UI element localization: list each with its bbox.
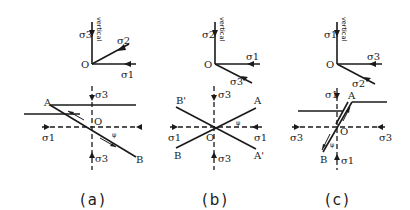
fault-stress-diagram: vertical σ3 σ1 σ2 O A B O ψ σ1 σ3: [0, 0, 410, 210]
bottom-stress-label: σ3: [95, 153, 108, 164]
bottom-stress-label: σ3: [218, 153, 231, 164]
arrow-right-icon: [172, 124, 178, 130]
point-b-prime-label: B': [176, 95, 186, 106]
origin-label: O: [326, 59, 334, 70]
caption-a: (a): [80, 191, 107, 209]
left-stress-label: σ1: [42, 132, 55, 143]
origin-label: O: [204, 59, 212, 70]
left-stress-label: σ1: [168, 132, 181, 143]
left-stress-label: σ3: [290, 132, 303, 143]
panel-a-fault: A B O ψ σ1 σ3 σ3: [24, 86, 143, 170]
vertical-label: vertical: [95, 17, 103, 41]
vertical-label: vertical: [340, 17, 348, 41]
angle-label: ψ: [112, 131, 116, 139]
origin-label: O: [81, 59, 89, 70]
panel-a: vertical σ3 σ1 σ2 O A B O ψ σ1 σ3: [24, 17, 143, 209]
arrow-left-icon: [252, 124, 258, 130]
horizontal-stress-label: σ1: [121, 69, 134, 80]
top-stress-label: σ3: [218, 89, 231, 100]
arrow-right-icon: [44, 124, 50, 130]
diagonal-stress-label: σ2: [352, 78, 365, 89]
arrow-up-icon: [334, 154, 340, 160]
right-stress-label: σ1: [254, 132, 267, 143]
angle-label: ψ: [236, 119, 240, 127]
vertical-stress-label: σ1: [324, 29, 337, 40]
arrow-down-icon: [211, 95, 217, 101]
bottom-stress-label: σ1: [341, 155, 354, 166]
fault-plane: [50, 105, 136, 157]
point-b-label: B: [320, 154, 327, 165]
point-a-label: A: [253, 95, 262, 106]
diagonal-stress-label: σ3: [230, 76, 243, 87]
caption-b: (b): [202, 191, 229, 209]
center-label: O: [94, 116, 102, 127]
angle-label: ψ: [330, 141, 334, 149]
point-a-label: A: [347, 90, 356, 101]
point-a-prime-label: A': [253, 150, 264, 161]
panel-b: vertical σ2 σ1 σ3 O B' A B A' O ψ σ1 σ1 …: [168, 17, 267, 209]
diagonal-stress-label: σ2: [117, 35, 130, 46]
right-stress-label: σ3: [379, 132, 392, 143]
point-b-label: B: [174, 150, 181, 161]
panel-c-fault: A B O ψ σ3 σ3 σ1 σ1: [290, 88, 392, 170]
arrow-left-icon: [377, 124, 383, 130]
arrow-left-icon: [124, 61, 131, 67]
panel-a-stress-axes: vertical σ3 σ1 σ2 O: [79, 17, 136, 80]
point-a-label: A: [43, 97, 52, 108]
arrow-up-icon: [211, 152, 217, 158]
horizontal-stress-label: σ3: [367, 51, 380, 62]
center-label: O: [340, 126, 348, 137]
panel-c-stress-axes: vertical σ1 σ3 σ2 O: [324, 17, 382, 89]
panel-b-stress-axes: vertical σ2 σ1 σ3 O: [202, 17, 260, 87]
vertical-stress-label: σ2: [202, 29, 215, 40]
arrow-left-icon: [136, 124, 142, 130]
panel-c: vertical σ1 σ3 σ2 O A B O ψ σ3 σ: [290, 17, 392, 209]
horizontal-stress-label: σ1: [246, 51, 259, 62]
vertical-label: vertical: [218, 17, 226, 41]
point-b-label: B: [136, 154, 143, 165]
top-stress-label: σ1: [325, 89, 338, 100]
vertical-stress-label: σ3: [79, 29, 92, 40]
arrow-right-icon: [294, 124, 300, 130]
panel-b-fault: B' A B A' O ψ σ1 σ1 σ3 σ3: [168, 86, 267, 170]
center-label: O: [206, 132, 214, 143]
caption-c: (c): [325, 191, 351, 209]
top-stress-label: σ3: [95, 89, 108, 100]
